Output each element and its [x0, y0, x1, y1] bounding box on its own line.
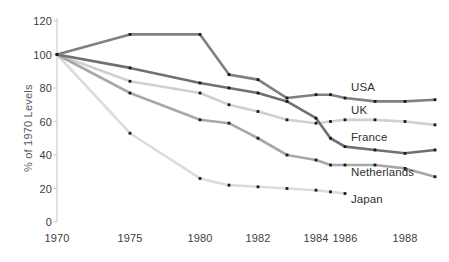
data-point-marker — [129, 92, 132, 95]
data-point-marker — [315, 159, 318, 162]
data-point-marker — [404, 100, 407, 103]
data-point-marker — [257, 137, 260, 140]
y-tick-label: 80 — [24, 82, 52, 94]
data-point-marker — [374, 100, 377, 103]
data-point-marker — [129, 67, 132, 70]
data-point-marker — [404, 120, 407, 123]
data-point-marker — [228, 73, 231, 76]
series-label-france: France — [351, 131, 387, 143]
data-point-marker — [286, 187, 289, 190]
data-point-marker — [329, 190, 332, 193]
data-point-marker — [315, 122, 318, 125]
data-point-marker — [199, 118, 202, 121]
x-tick-label: 1980 — [188, 232, 213, 244]
data-point-marker — [315, 189, 318, 192]
data-point-marker — [228, 122, 231, 125]
data-point-marker — [434, 123, 437, 126]
data-point-marker — [315, 117, 318, 120]
x-tick-label: 1982 — [246, 232, 271, 244]
data-point-marker — [257, 110, 260, 113]
data-point-marker — [344, 145, 347, 148]
x-tick-label: 1986 — [333, 232, 358, 244]
data-point-marker — [228, 103, 231, 106]
data-point-marker — [286, 97, 289, 100]
y-tick-label: 40 — [24, 149, 52, 161]
series-japan — [57, 55, 346, 195]
data-point-marker — [286, 118, 289, 121]
series-label-japan: Japan — [351, 193, 383, 205]
series-label-usa: USA — [351, 81, 375, 93]
x-tick-label: 1975 — [118, 232, 143, 244]
x-tick-label: 1988 — [393, 232, 418, 244]
data-point-marker — [199, 33, 202, 36]
origin-data-point-marker — [56, 53, 59, 56]
data-point-marker — [286, 100, 289, 103]
data-point-marker — [434, 98, 437, 101]
data-point-marker — [344, 97, 347, 100]
x-tick-label: 1970 — [45, 232, 70, 244]
data-point-marker — [257, 185, 260, 188]
data-point-marker — [344, 192, 347, 195]
data-point-marker — [257, 78, 260, 81]
data-point-marker — [199, 82, 202, 85]
x-tick-label: 1984 — [304, 232, 329, 244]
data-point-marker — [228, 87, 231, 90]
chart-container: % of 1970 Levels 020406080100120 1970197… — [0, 0, 449, 262]
y-tick-label: 120 — [24, 15, 52, 27]
data-point-marker — [329, 93, 332, 96]
data-point-marker — [344, 118, 347, 121]
y-tick-label: 20 — [24, 183, 52, 195]
data-point-marker — [329, 137, 332, 140]
series-label-netherlands: Netherlands — [351, 166, 414, 178]
data-point-marker — [329, 164, 332, 167]
data-point-marker — [374, 118, 377, 121]
data-point-marker — [129, 132, 132, 135]
data-point-marker — [329, 120, 332, 123]
data-point-marker — [434, 175, 437, 178]
data-point-marker — [315, 93, 318, 96]
y-tick-label: 100 — [24, 49, 52, 61]
data-point-marker — [344, 164, 347, 167]
y-tick-label: 0 — [24, 216, 52, 228]
y-tick-label: 60 — [24, 116, 52, 128]
data-point-marker — [404, 152, 407, 155]
data-point-marker — [434, 149, 437, 152]
data-point-marker — [199, 177, 202, 180]
series-label-uk: UK — [351, 104, 367, 116]
data-point-marker — [228, 184, 231, 187]
data-point-marker — [199, 92, 202, 95]
data-point-marker — [286, 154, 289, 157]
data-point-marker — [129, 80, 132, 83]
data-point-marker — [374, 149, 377, 152]
data-point-marker — [257, 92, 260, 95]
data-point-marker — [129, 33, 132, 36]
